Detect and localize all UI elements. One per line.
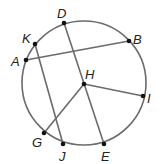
point-e — [102, 142, 107, 147]
label-i: I — [147, 91, 151, 106]
point-a — [24, 58, 29, 63]
point-j — [61, 142, 66, 147]
point-h — [82, 82, 87, 87]
segment-hi — [84, 84, 143, 96]
circle-diagram: DKABHIGJE — [0, 0, 162, 164]
label-k: K — [22, 31, 32, 46]
point-d — [62, 21, 67, 26]
labels: DKABHIGJE — [10, 6, 151, 164]
segment-kj — [35, 44, 63, 144]
label-e: E — [101, 149, 110, 164]
segment-ab — [26, 41, 129, 60]
label-d: D — [57, 6, 66, 21]
label-g: G — [32, 135, 42, 150]
label-j: J — [58, 149, 66, 164]
segment-hg — [44, 84, 84, 133]
point-k — [33, 42, 38, 47]
label-b: B — [133, 32, 142, 47]
point-i — [141, 94, 146, 99]
label-a: A — [10, 54, 20, 69]
point-b — [127, 39, 132, 44]
point-g — [42, 131, 47, 136]
label-h: H — [85, 67, 95, 82]
